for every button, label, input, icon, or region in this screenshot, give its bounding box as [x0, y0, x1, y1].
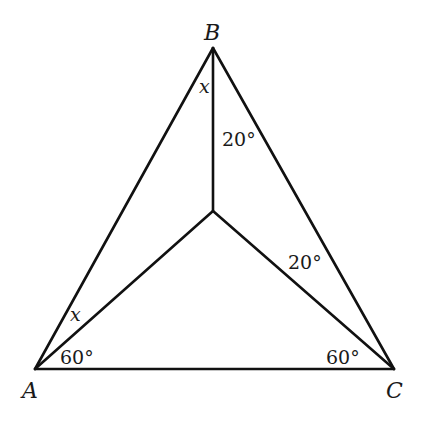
segment-cd — [213, 211, 394, 369]
vertex-label-b: B — [203, 20, 220, 45]
edge-bc — [213, 48, 394, 369]
edge-ab — [35, 48, 213, 369]
vertex-label-a: A — [20, 378, 38, 403]
vertex-label-c: C — [386, 378, 403, 403]
angle-label-b-20: 20° — [222, 128, 256, 150]
angle-label-a-x: x — [70, 303, 81, 325]
angle-label-b-x: x — [199, 75, 210, 97]
angle-label-a-60: 60° — [60, 346, 94, 368]
angle-label-c-60: 60° — [326, 346, 360, 368]
angle-label-c-20: 20° — [288, 251, 322, 273]
triangle-diagram: B A C x 20° 20° x 60° 60° — [0, 0, 426, 422]
